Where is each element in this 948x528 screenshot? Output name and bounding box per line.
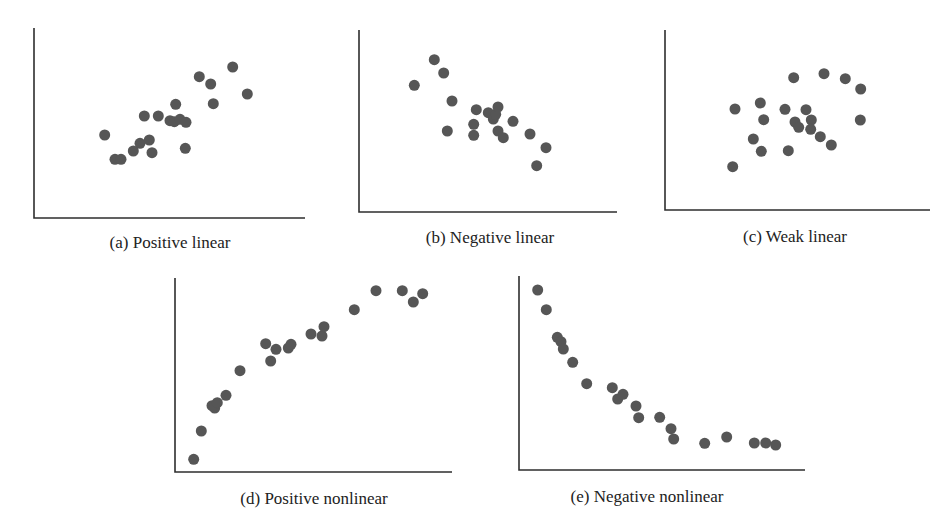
caption: (d) Positive nonlinear [240, 489, 388, 508]
data-point [618, 389, 629, 400]
caption: (c) Weak linear [743, 227, 847, 246]
scatter-panel-positive-nonlinear: (d) Positive nonlinear [175, 278, 452, 508]
data-point [855, 84, 866, 95]
data-point [788, 72, 799, 83]
data-point [286, 339, 297, 350]
scatter-panel-negative-nonlinear: (e) Negative nonlinear [519, 276, 805, 506]
data-point [147, 147, 158, 158]
data-point [749, 438, 760, 449]
scatter-panel-positive-linear: (a) Positive linear [34, 28, 305, 252]
data-point [541, 142, 552, 153]
data-point [758, 114, 769, 125]
data-point [531, 160, 542, 171]
scatter-panel-weak-linear: (c) Weak linear [665, 30, 930, 246]
axes [359, 30, 617, 212]
scatter-panel-negative-linear: (b) Negative linear [359, 30, 617, 247]
data-point [498, 132, 509, 143]
data-point [194, 71, 205, 82]
data-point [756, 146, 767, 157]
data-point [770, 440, 781, 451]
data-point [317, 331, 328, 342]
data-point [508, 116, 519, 127]
data-point [783, 145, 794, 156]
data-point [170, 99, 181, 110]
data-point [721, 432, 732, 443]
data-point [727, 161, 738, 172]
data-point [471, 104, 482, 115]
data-point [755, 98, 766, 109]
data-point [558, 344, 569, 355]
data-point [227, 62, 238, 73]
data-point [525, 129, 536, 140]
caption: (e) Negative nonlinear [571, 487, 724, 506]
data-point [438, 68, 449, 79]
data-point [819, 68, 830, 79]
data-point [235, 365, 246, 376]
data-point [208, 98, 219, 109]
data-point [805, 124, 816, 135]
data-point [633, 412, 644, 423]
data-point [668, 434, 679, 445]
data-point [840, 73, 851, 84]
data-point [654, 412, 665, 423]
caption: (a) Positive linear [110, 233, 231, 252]
data-point [468, 119, 479, 130]
data-point [760, 438, 771, 449]
data-point [188, 454, 199, 465]
data-point [306, 329, 317, 340]
data-point [468, 130, 479, 141]
scatter-figure: (a) Positive linear (b) Negative linear … [0, 0, 948, 528]
data-point [196, 426, 207, 437]
data-point [666, 423, 677, 434]
data-points [188, 285, 428, 465]
data-point [748, 134, 759, 145]
data-points [532, 285, 781, 451]
data-point [349, 304, 360, 315]
data-point [532, 285, 543, 296]
data-point [242, 89, 253, 100]
data-point [144, 135, 155, 146]
data-point [221, 390, 232, 401]
data-point [181, 117, 192, 128]
data-point [826, 140, 837, 151]
data-point [855, 115, 866, 126]
data-points [409, 54, 552, 171]
data-point [409, 80, 420, 91]
data-point [493, 102, 504, 113]
caption: (b) Negative linear [426, 228, 555, 247]
data-point [780, 104, 791, 115]
data-point [631, 401, 642, 412]
data-point [815, 131, 826, 142]
data-point [265, 356, 276, 367]
data-point [429, 54, 440, 65]
data-points [99, 62, 253, 165]
data-point [153, 111, 164, 122]
data-point [116, 154, 127, 165]
data-point [319, 321, 330, 332]
data-point [397, 285, 408, 296]
data-point [205, 79, 216, 90]
data-point [99, 130, 110, 141]
data-point [271, 344, 282, 355]
data-point [260, 338, 271, 349]
data-point [793, 122, 804, 133]
data-point [447, 96, 458, 107]
data-points [727, 68, 866, 172]
data-point [442, 126, 453, 137]
data-point [408, 297, 419, 308]
data-point [417, 288, 428, 299]
data-point [180, 143, 191, 154]
axes [175, 278, 452, 472]
data-point [699, 438, 710, 449]
data-point [801, 104, 812, 115]
data-point [581, 378, 592, 389]
data-point [541, 304, 552, 315]
data-point [371, 285, 382, 296]
data-point [607, 382, 618, 393]
data-point [139, 111, 150, 122]
data-point [730, 104, 741, 115]
data-point [212, 397, 223, 408]
data-point [567, 357, 578, 368]
